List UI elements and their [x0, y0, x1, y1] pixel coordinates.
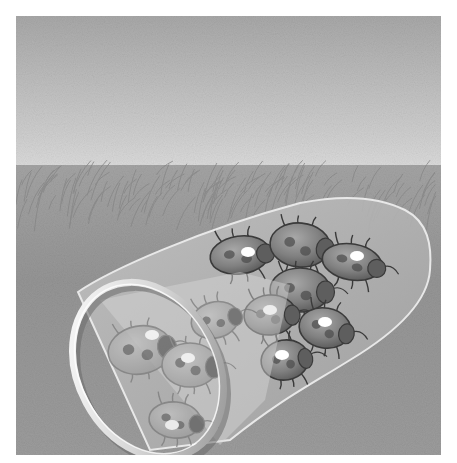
shine-highlight: [275, 350, 289, 360]
shine-highlight: [181, 353, 195, 363]
shine-highlight: [145, 330, 159, 340]
beetle-spot: [301, 291, 312, 301]
shine-highlight: [165, 420, 179, 430]
shine-highlight: [241, 247, 255, 257]
sky: [16, 16, 441, 176]
beetle-spot: [191, 366, 201, 376]
shine-highlight: [350, 251, 364, 261]
illustration-frame: [16, 16, 441, 455]
shine-highlight: [318, 317, 332, 327]
net-with-beetles-illustration: [16, 16, 441, 455]
